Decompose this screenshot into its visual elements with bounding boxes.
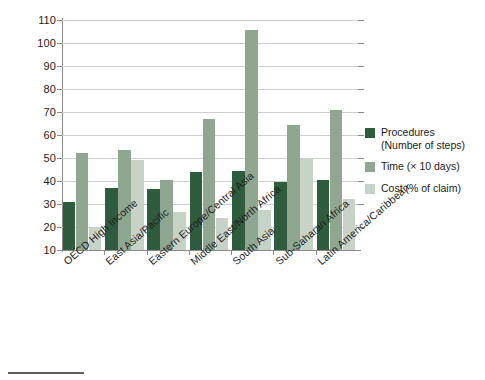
legend-label-line2: (Number of steps) [381,139,465,152]
legend-item[interactable]: Procedures(Number of steps) [365,126,483,151]
gridline-tick-stub [358,89,364,90]
x-axis-tick [189,250,190,255]
bar [330,110,343,250]
x-axis-category-labels: OECD High IncomeEast Asia/PacificEastern… [0,250,485,380]
y-axis-tick-label: 30 [16,198,56,210]
legend-swatch-icon [365,184,375,194]
legend-label: Time (× 10 days) [381,160,460,173]
y-axis-tick-label: 110 [16,14,56,26]
bar-group [273,20,315,250]
y-axis-tick-label: 70 [16,106,56,118]
chart-legend: Procedures(Number of steps)Time (× 10 da… [365,126,483,203]
y-axis-labels: 102030405060708090100110 [12,20,56,250]
bar-chart: 102030405060708090100110 OECD High Incom… [0,0,485,380]
legend-label: Cost (% of claim) [381,182,461,195]
y-axis-tick-label: 50 [16,152,56,164]
legend-item[interactable]: Time (× 10 days) [365,160,483,173]
footer-rule [8,372,84,374]
bar-group [62,20,104,250]
x-axis-tick [316,250,317,255]
gridline-tick-stub [358,181,364,182]
x-axis-tick [147,250,148,255]
bar [287,125,300,250]
y-axis-tick-label: 60 [16,129,56,141]
bar [203,119,216,250]
x-axis-tick [273,250,274,255]
y-axis-tick-label: 40 [16,175,56,187]
gridline-tick-stub [358,112,364,113]
bar [63,202,76,250]
y-axis-tick-label: 100 [16,37,56,49]
y-axis-tick-label: 20 [16,221,56,233]
y-axis-tick-label: 90 [16,60,56,72]
legend-swatch-icon [365,128,375,138]
x-axis-tick [231,250,232,255]
gridline-tick-stub [358,158,364,159]
gridline-tick-stub [358,20,364,21]
gridline-tick-stub [358,43,364,44]
gridline-tick-stub [358,66,364,67]
gridline-tick-stub [358,204,364,205]
x-axis-tick [104,250,105,255]
legend-label: Procedures(Number of steps) [381,126,465,151]
legend-swatch-icon [365,162,375,172]
y-axis-tick-label: 80 [16,83,56,95]
gridline-tick-stub [358,135,364,136]
legend-item[interactable]: Cost (% of claim) [365,182,483,195]
